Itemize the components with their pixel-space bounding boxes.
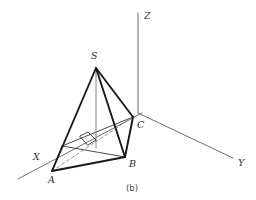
vertex-label-c: C xyxy=(137,119,145,130)
vertex-label-b: B xyxy=(128,158,136,169)
figure-container: X Y Z S A B C (b) xyxy=(0,0,256,200)
z-axis-label: Z xyxy=(143,10,151,21)
figure-caption: (b) xyxy=(126,183,138,193)
geometry-diagram: X Y Z S A B C (b) xyxy=(0,0,256,200)
x-axis-label: X xyxy=(32,151,41,162)
y-axis-label: Y xyxy=(238,157,246,168)
pyramid-edges-group xyxy=(52,68,133,171)
pyramid-edge-s-c xyxy=(96,68,133,117)
pyramid-edge-s-a xyxy=(52,68,96,171)
pyramid-edge-s-b xyxy=(96,68,125,157)
pyramid-edge-b-c xyxy=(125,117,133,157)
y-axis-line xyxy=(138,113,233,158)
base-edge-far-to-b xyxy=(62,146,125,157)
vertex-label-a: A xyxy=(47,174,55,185)
x-axis-line xyxy=(18,113,142,179)
vertex-label-s: S xyxy=(91,50,98,61)
